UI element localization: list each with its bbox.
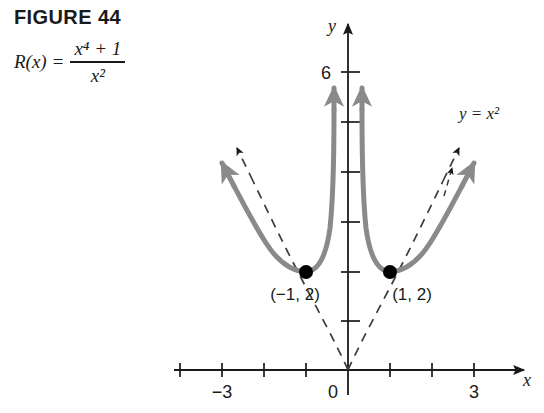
curve-left-inner [306,110,334,272]
parabola-left-arrow [237,148,253,181]
point-label-right: (1, 2) [392,285,432,304]
marker-point-right [383,265,397,279]
curve-right-outer [390,186,462,272]
x-axis-label: x [522,370,531,390]
annotation-label-y-equals-x-squared: y = x² [457,104,500,123]
x-tick-label-0: 0 [328,382,338,402]
figure-root: FIGURE 44 R(x) = x⁴ + 1 x² [0,0,544,413]
curve-left-outer-arrow [222,163,234,186]
curve-right-inner [362,110,390,272]
x-tick-label-3: 3 [469,382,479,402]
curve-left-outer [234,186,306,272]
parabola-right-arrow [443,148,459,181]
x-tick-label--3: −3 [212,382,233,402]
parabola-annotation: y = x² [444,104,500,196]
y-axis-ticks [341,72,360,321]
plot-area: y = x² y x −3 0 3 6 (−1, 2) (1, 2) [0,0,544,413]
marker-point-left [299,265,313,279]
curve-right-outer-arrow [462,163,474,186]
y-axis-label: y [326,16,336,36]
axes [174,24,524,395]
point-label-left: (−1, 2) [270,285,320,304]
annotation-leader-line [444,168,452,196]
y-tick-label-6: 6 [321,63,331,83]
